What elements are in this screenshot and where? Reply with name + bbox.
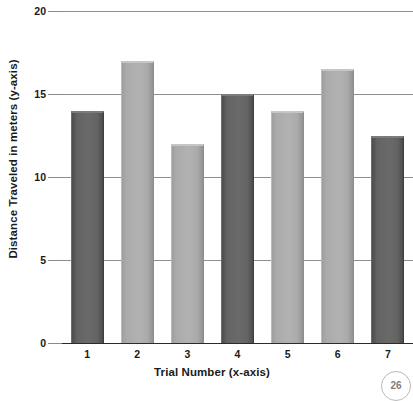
y-axis-tick-mark [48, 177, 62, 178]
x-axis-tick-label: 3 [162, 346, 212, 362]
bar [371, 136, 404, 344]
x-axis-tick-label: 6 [313, 346, 363, 362]
page-number-badge: 26 [381, 371, 411, 401]
y-axis-tick-labels: 20151050 [22, 0, 46, 392]
bar [321, 69, 354, 343]
bar [171, 144, 204, 343]
x-axis-tick-label: 7 [363, 346, 413, 362]
x-axis-tick-label: 1 [62, 346, 112, 362]
plot-area [62, 11, 413, 343]
x-axis-tick-label: 2 [112, 346, 162, 362]
x-axis-tick-label: 4 [212, 346, 262, 362]
bar [271, 111, 304, 343]
x-axis-tick-label: 5 [263, 346, 313, 362]
bar [121, 61, 154, 343]
bar [221, 94, 254, 343]
y-axis-tick-label: 0 [22, 337, 46, 349]
bar [71, 111, 104, 343]
y-axis-tick-mark [48, 260, 62, 261]
y-axis-tick-label: 10 [22, 171, 46, 183]
y-axis-tick-label: 20 [22, 5, 46, 17]
y-axis-tick-label: 5 [22, 254, 46, 266]
y-axis-title: Distance Traveled in meters (y-axis) [2, 9, 24, 309]
y-axis-tick-mark [48, 11, 62, 12]
y-axis-tick-marks [48, 0, 62, 392]
y-axis-tick-mark [48, 343, 62, 344]
y-axis-tick-label: 15 [22, 88, 46, 100]
bars-layer [62, 11, 413, 343]
x-axis-tick-labels: 1234567 [62, 346, 413, 364]
x-axis-title: Trial Number (x-axis) [62, 366, 362, 378]
x-axis-baseline [62, 343, 413, 344]
y-axis-tick-mark [48, 94, 62, 95]
